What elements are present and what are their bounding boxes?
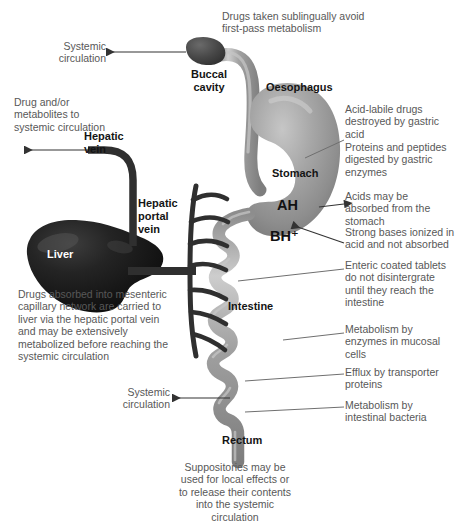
organ-label-hepatic-vein: Hepatic vein: [84, 130, 154, 156]
annotation-efflux: Efflux by transporter proteins: [345, 366, 469, 391]
label-neutral-acid: AH: [277, 197, 317, 214]
intestine-shape: [213, 214, 249, 462]
annotation-mucosal-metabolism: Metabolism by enzymes in mucosal cells: [345, 323, 469, 360]
organ-label-stomach: Stomach: [272, 167, 342, 180]
label-protonated-base: BH⁺: [270, 228, 316, 245]
annotation-systemic-circulation-top: Systemic circulation: [8, 40, 106, 65]
annotation-enteric-coated: Enteric coated tablets do not disintergr…: [345, 259, 469, 309]
annotation-acids-absorbed: Acids may be absorbed from the stomach: [345, 190, 469, 227]
annotation-gastric-enzymes: Proteins and peptides digested by gastri…: [345, 141, 470, 178]
leader-efflux: [245, 374, 344, 381]
organ-label-intestine: Intestine: [228, 300, 298, 313]
annotation-sublingual: Drugs taken sublingually avoid first-pas…: [222, 10, 452, 35]
organ-label-liver: Liver: [47, 248, 97, 261]
leader-bacteria: [245, 407, 344, 412]
annotation-mesenteric: Drugs absorbed into mesenteric capillary…: [18, 288, 208, 362]
leader-enteric-coated: [238, 269, 344, 281]
organ-label-hepatic-portal-vein: Hepatic portal vein: [138, 197, 198, 236]
buccal-cavity-shape: [186, 37, 225, 65]
annotation-gastric-acid: Acid-labile drugs destroyed by gastric a…: [345, 103, 469, 140]
organ-label-rectum: Rectum: [222, 434, 282, 447]
annotation-strong-bases: Strong bases ionized in acid and not abs…: [345, 226, 470, 251]
annotation-suppositories: Suppositories may be used for local effe…: [142, 461, 328, 523]
leader-mucosal: [283, 333, 344, 340]
organ-label-oesophagus: Oesophagus: [266, 81, 356, 94]
annotation-drug-metabolites: Drug and/or metabolites to systemic circ…: [14, 96, 144, 133]
organ-label-buccal-cavity: Buccal cavity: [178, 68, 240, 94]
annotation-bacterial-metabolism: Metabolism by intestinal bacteria: [345, 399, 469, 424]
annotation-systemic-circulation-rectal: Systemic circulation: [90, 386, 170, 411]
